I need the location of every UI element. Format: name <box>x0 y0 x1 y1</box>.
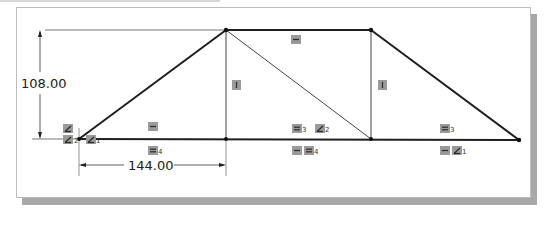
dimension-horizontal[interactable]: 144.00 <box>79 158 226 173</box>
vertex-point[interactable] <box>369 137 373 141</box>
svg-text:2: 2 <box>325 126 329 134</box>
relation-collinear-icon[interactable]: 2 <box>315 124 329 134</box>
relation-equal-icon[interactable]: 3 <box>440 124 454 134</box>
svg-text:2: 2 <box>74 137 78 145</box>
relation-vertical-icon[interactable] <box>232 80 241 90</box>
arrowhead-icon <box>79 163 86 167</box>
relation-collinear-icon[interactable]: 1 <box>86 135 100 145</box>
bottom-line[interactable] <box>79 139 519 140</box>
arrowhead-icon <box>38 132 42 139</box>
relation-horizontal-icon[interactable] <box>292 146 302 155</box>
svg-text:4: 4 <box>158 148 163 156</box>
sketch-canvas[interactable]: 108.00 144.00 2 1 4 3 2 <box>0 0 548 226</box>
relation-collinear-icon[interactable]: 1 <box>452 146 466 156</box>
svg-text:1: 1 <box>462 148 466 156</box>
relation-equal-icon[interactable]: 3 <box>292 124 306 134</box>
relation-horizontal-icon[interactable] <box>148 122 158 131</box>
relation-equal-icon[interactable]: 4 <box>148 146 163 156</box>
dimension-vertical-value[interactable]: 108.00 <box>21 76 67 91</box>
vertex-point[interactable] <box>224 137 228 141</box>
svg-text:4: 4 <box>314 148 319 156</box>
diagonal-line[interactable] <box>226 30 371 139</box>
svg-text:1: 1 <box>96 137 100 145</box>
vertex-point[interactable] <box>517 138 521 142</box>
right-slanted-line[interactable] <box>371 30 519 140</box>
svg-text:3: 3 <box>302 126 306 134</box>
relation-equal-icon[interactable]: 4 <box>304 146 319 156</box>
relation-horizontal-icon[interactable] <box>291 35 301 44</box>
relation-vertical-icon[interactable] <box>378 80 387 90</box>
arrowhead-icon <box>38 30 42 37</box>
arrowhead-icon <box>219 163 226 167</box>
relation-collinear-icon[interactable]: 2 <box>63 135 78 145</box>
svg-text:3: 3 <box>450 126 454 134</box>
relation-horizontal-icon[interactable] <box>440 146 450 155</box>
dimension-vertical[interactable]: 108.00 <box>21 30 67 139</box>
relation-collinear-icon[interactable] <box>63 124 73 133</box>
vertex-point[interactable] <box>369 28 373 32</box>
dimension-horizontal-value[interactable]: 144.00 <box>128 158 174 173</box>
vertex-point[interactable] <box>224 28 228 32</box>
